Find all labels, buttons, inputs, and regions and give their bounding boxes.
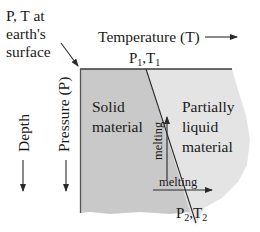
point2-t-sub: 2 bbox=[202, 212, 207, 223]
point1-t-sub: 1 bbox=[155, 57, 160, 68]
surface-label-line3: surface bbox=[6, 43, 51, 61]
melting-vertical-label: melting bbox=[152, 122, 165, 160]
liquid-label-line1: Partially bbox=[182, 97, 235, 117]
solid-material-label: Solid material bbox=[92, 97, 143, 137]
temperature-axis-label: Temperature (T) bbox=[98, 29, 200, 45]
surface-label: P, T at earth's surface bbox=[6, 7, 51, 61]
solid-label-line1: Solid bbox=[92, 97, 143, 117]
point1-label: P1,T1 bbox=[129, 51, 160, 68]
melting-horizontal-label: melting bbox=[159, 176, 197, 189]
solid-label-line2: material bbox=[92, 117, 143, 137]
liquid-label-line3: material bbox=[182, 137, 235, 157]
point1-t: T bbox=[146, 50, 155, 66]
point2-label: P2,T2 bbox=[176, 206, 207, 223]
surface-label-line1: P, T at bbox=[6, 7, 51, 25]
surface-label-line2: earth's bbox=[6, 25, 51, 43]
depth-label: Depth bbox=[16, 114, 32, 152]
pressure-axis-label: Pressure (P) bbox=[56, 77, 72, 152]
partially-liquid-label: Partially liquid material bbox=[182, 97, 235, 157]
point2-t: T bbox=[193, 205, 202, 221]
surface-pointer-arrow bbox=[61, 43, 78, 66]
liquid-label-line2: liquid bbox=[182, 117, 235, 137]
